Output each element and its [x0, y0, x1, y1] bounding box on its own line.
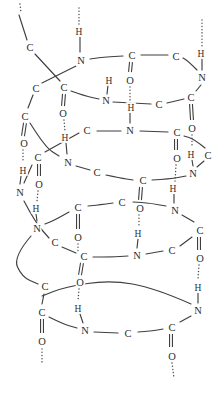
- hydrogen-bond-dots: [175, 165, 176, 181]
- hydrogen-bond-dots: [198, 265, 199, 279]
- double-bond-line: [192, 104, 193, 120]
- atom-label-c: C: [21, 111, 28, 122]
- atom-label-o: O: [74, 232, 82, 243]
- covalent-bond: [28, 95, 33, 108]
- covalent-bond: [76, 166, 90, 170]
- covalent-bond: [196, 85, 201, 91]
- covalent-bond: [90, 56, 123, 59]
- atom-label-c: C: [187, 92, 194, 103]
- covalent-bond: [107, 85, 108, 94]
- covalent-bond: [184, 136, 205, 148]
- alpha-helix-figure: CCONHCCONHCCONHCCONHCCONHCCONHCCONHCCONH…: [0, 0, 220, 393]
- atom-label-n: N: [198, 72, 206, 83]
- hydrogen-bond-dots: [78, 289, 79, 301]
- double-bond-line: [24, 123, 26, 136]
- atom-label-o: O: [20, 138, 28, 149]
- covalent-bond: [183, 58, 197, 70]
- covalent-bond: [71, 91, 99, 99]
- covalent-bond: [192, 160, 193, 166]
- covalent-bond: [106, 175, 133, 180]
- covalent-bond: [36, 214, 37, 221]
- covalent-bond: [146, 251, 163, 254]
- atom-label-h: H: [135, 229, 142, 239]
- covalent-bond: [88, 203, 113, 206]
- atom-label-n: N: [171, 205, 179, 216]
- double-bond-line: [190, 104, 191, 120]
- atom-label-c: C: [124, 328, 131, 339]
- atom-label-c: C: [128, 50, 135, 61]
- atom-label-n: N: [194, 305, 202, 316]
- covalent-bond: [19, 15, 27, 40]
- atom-label-n: N: [33, 223, 41, 234]
- atom-label-o: O: [76, 277, 84, 288]
- atom-label-o: O: [59, 108, 67, 119]
- atom-label-h: H: [195, 283, 202, 293]
- atom-label-h: H: [188, 150, 195, 160]
- atom-label-c: C: [41, 281, 48, 292]
- covalent-bond: [45, 212, 69, 224]
- covalent-bond: [140, 131, 168, 132]
- atom-label-c: C: [80, 251, 87, 262]
- atom-label-o: O: [35, 179, 43, 190]
- atom-label-c: C: [51, 237, 58, 248]
- double-bond-line: [22, 123, 24, 136]
- atom-label-c: C: [74, 202, 81, 213]
- atom-label-n: N: [16, 187, 24, 198]
- atom-label-h: H: [33, 204, 40, 214]
- atom-label-o: O: [126, 75, 134, 86]
- hydrogen-bond-dots: [20, 4, 21, 13]
- atom-label-h: H: [76, 27, 83, 37]
- atom-label-h: H: [20, 166, 27, 176]
- covalent-bond: [94, 332, 118, 333]
- atom-label-h: H: [198, 49, 205, 59]
- atom-label-o: O: [38, 336, 46, 347]
- atom-label-c: C: [168, 245, 175, 256]
- hydrogen-bond-dots: [64, 120, 65, 131]
- covalent-bond: [62, 247, 76, 253]
- covalent-bond: [80, 314, 83, 323]
- covalent-bond: [20, 176, 21, 184]
- atom-label-c: C: [168, 322, 175, 333]
- atom-label-o: O: [173, 153, 181, 164]
- covalent-bond: [49, 317, 77, 328]
- atom-label-h: H: [62, 133, 69, 143]
- atom-label-c: C: [93, 167, 100, 178]
- atom-label-c: C: [32, 83, 39, 94]
- covalent-bond: [180, 237, 192, 246]
- alpha-helix-diagram: CCONHCCONHCCONHCCONHCCONHCCONHCCONHCCONH…: [0, 0, 220, 393]
- double-bond-line: [81, 263, 83, 275]
- atom-label-c: C: [60, 82, 67, 93]
- hydrogen-bond-dots: [37, 191, 38, 201]
- atom-label-c: C: [118, 197, 125, 208]
- atom-label-n: N: [64, 157, 72, 168]
- double-bond-line: [64, 94, 65, 106]
- covalent-bond: [17, 236, 38, 284]
- covalent-bond: [42, 282, 191, 304]
- atom-label-c: C: [34, 152, 41, 163]
- atom-label-c: C: [139, 175, 146, 186]
- covalent-bond: [137, 239, 138, 248]
- atom-label-c: C: [173, 127, 180, 138]
- atom-label-h: H: [75, 304, 82, 314]
- atom-label-n: N: [133, 250, 141, 261]
- atom-label-n: N: [77, 55, 85, 66]
- double-bond-line: [141, 187, 142, 200]
- atom-label-c: C: [83, 125, 90, 136]
- covalent-bond: [152, 176, 186, 180]
- covalent-bond: [138, 329, 163, 332]
- atom-label-h: H: [106, 76, 113, 86]
- atom-label-h: H: [128, 103, 135, 113]
- double-bond-line: [62, 94, 63, 106]
- atom-label-n: N: [102, 95, 110, 106]
- atom-label-o: O: [136, 203, 144, 214]
- covalent-bond: [35, 54, 60, 81]
- covalent-bond: [197, 161, 204, 167]
- atom-label-c: C: [155, 99, 162, 110]
- atom-label-n: N: [81, 325, 89, 336]
- atom-label-c: C: [204, 150, 211, 161]
- covalent-bond: [167, 99, 184, 103]
- double-bond-line: [131, 62, 132, 72]
- atom-label-c: C: [172, 51, 179, 62]
- atom-label-o: O: [168, 351, 176, 362]
- atom-label-c: C: [196, 225, 203, 236]
